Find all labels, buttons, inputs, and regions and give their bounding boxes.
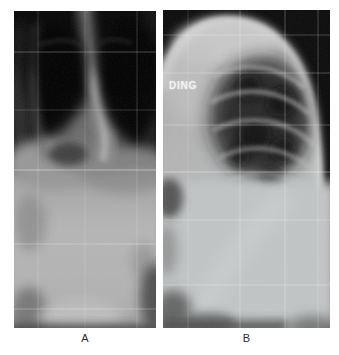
radiograph-lateral: DING: [163, 10, 330, 328]
frontal-xray-svg: [14, 11, 156, 328]
lateral-xray-svg: [163, 10, 330, 328]
figure: A: [0, 0, 339, 355]
panel-label-b: B: [163, 331, 330, 345]
panel-b: DING B: [163, 10, 330, 345]
panel-a: A: [14, 11, 156, 345]
panel-label-a: A: [14, 331, 156, 345]
radiograph-frontal: [14, 11, 156, 328]
